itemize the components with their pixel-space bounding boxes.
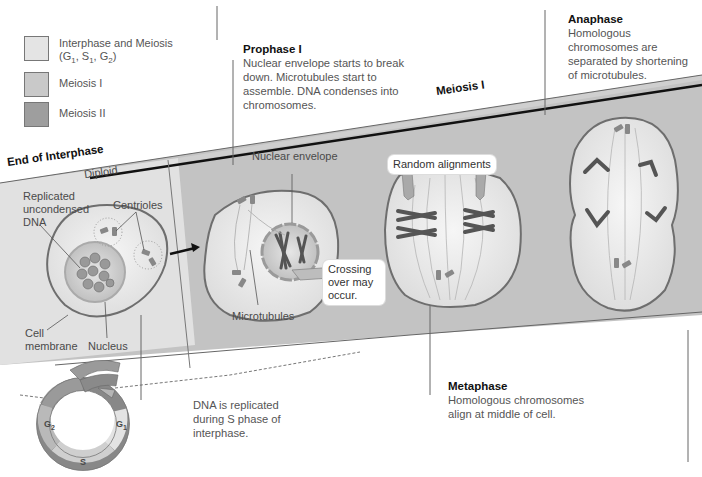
cycle-label-g2: G2 bbox=[44, 418, 55, 434]
microtubules-label: Microtubules bbox=[232, 310, 294, 323]
legend: Interphase and Meiosis (G1, S1, G2) Meio… bbox=[24, 36, 173, 132]
nucleus-label: Nucleus bbox=[88, 340, 128, 353]
legend-swatch bbox=[24, 72, 49, 97]
replicated-dna-label: Replicated uncondensed DNA bbox=[23, 190, 93, 229]
legend-item-meiosis-i: Meiosis I bbox=[24, 72, 173, 97]
anaphase-description: Anaphase Homologous chromosomes are sepa… bbox=[568, 12, 698, 82]
legend-item-meiosis-ii: Meiosis II bbox=[24, 102, 173, 127]
centrioles-label: Centrioles bbox=[113, 199, 163, 212]
random-alignments-callout: Random alignments bbox=[388, 155, 496, 174]
interphase-note: DNA is replicated during S phase of inte… bbox=[193, 398, 298, 440]
meiosis-diagram: Interphase and Meiosis (G1, S1, G2) Meio… bbox=[0, 0, 702, 477]
crossing-over-callout: Crossing over may occur. bbox=[323, 260, 385, 305]
cycle-label-s: S bbox=[80, 456, 86, 469]
cycle-label-g1: G1 bbox=[116, 418, 127, 434]
nuclear-envelope-label: Nuclear envelope bbox=[252, 150, 338, 163]
cell-membrane-label-2: membrane bbox=[25, 340, 78, 353]
metaphase-description: Metaphase Homologous chromosomes align a… bbox=[448, 379, 598, 421]
cell-membrane-label-1: Cell bbox=[25, 327, 44, 340]
legend-swatch bbox=[24, 102, 49, 127]
legend-item-interphase: Interphase and Meiosis (G1, S1, G2) bbox=[24, 36, 173, 67]
legend-swatch bbox=[24, 36, 49, 61]
prophase-description: Prophase I Nuclear envelope starts to br… bbox=[243, 42, 408, 112]
cell-cycle-ring bbox=[37, 360, 130, 470]
